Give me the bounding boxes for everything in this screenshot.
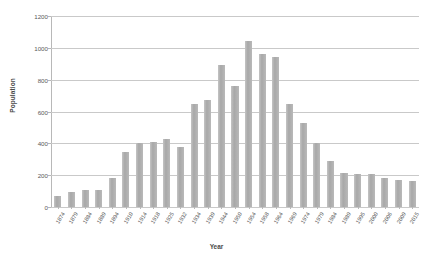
bar: [409, 181, 416, 207]
x-tick-label: 1918: [150, 211, 162, 225]
x-tick-label: 1989: [340, 211, 352, 225]
bar: [204, 100, 211, 207]
x-tick-mark: [317, 207, 318, 209]
bar: [150, 142, 157, 207]
y-tick-mark: [48, 143, 51, 144]
x-tick-label: 1969: [286, 211, 298, 225]
bar: [82, 190, 89, 208]
y-axis-title: Population: [9, 56, 16, 136]
x-tick-label: 1958: [259, 211, 271, 225]
x-tick-label: 1974: [300, 211, 312, 225]
bar: [313, 143, 320, 207]
x-tick-label: 2015: [409, 211, 421, 225]
y-tick-label: 800: [8, 76, 48, 83]
x-tick-mark: [371, 207, 372, 209]
x-tick-mark: [276, 207, 277, 209]
y-tick-mark: [48, 16, 51, 17]
x-tick-mark: [358, 207, 359, 209]
y-tick-label: 400: [8, 140, 48, 147]
y-tick-mark: [48, 48, 51, 49]
x-tick-mark: [180, 207, 181, 209]
x-tick-mark: [330, 207, 331, 209]
x-tick-label: 1894: [109, 211, 121, 225]
x-tick-mark: [221, 207, 222, 209]
x-tick-label: 1934: [191, 211, 203, 225]
x-tick-mark: [126, 207, 127, 209]
x-tick-label: 1932: [177, 211, 189, 225]
x-tick-mark: [303, 207, 304, 209]
x-tick-label: 1950: [231, 211, 243, 225]
bar: [163, 139, 170, 207]
x-tick-label: 1964: [272, 211, 284, 225]
x-tick-label: 2006: [381, 211, 393, 225]
bar: [368, 174, 375, 207]
x-tick-label: 1995: [354, 211, 366, 225]
x-tick-label: 1884: [81, 211, 93, 225]
x-tick-mark: [290, 207, 291, 209]
y-tick-mark: [48, 80, 51, 81]
bar: [272, 57, 279, 207]
bar: [54, 196, 61, 207]
x-tick-label: 1910: [122, 211, 134, 225]
bar-series: [51, 16, 419, 207]
x-tick-mark: [71, 207, 72, 209]
y-tick-label: 1200: [8, 13, 48, 20]
y-tick-label: 200: [8, 172, 48, 179]
x-tick-label: 1914: [136, 211, 148, 225]
x-tick-mark: [194, 207, 195, 209]
bar: [300, 123, 307, 207]
bar: [245, 41, 252, 207]
bar: [177, 147, 184, 207]
y-tick-label: 1000: [8, 44, 48, 51]
y-tick-label: 600: [8, 108, 48, 115]
x-tick-mark: [399, 207, 400, 209]
x-tick-label: 2009: [395, 211, 407, 225]
population-bar-chart: Population Year 020040060080010001200 18…: [0, 0, 433, 259]
x-tick-mark: [344, 207, 345, 209]
x-tick-mark: [140, 207, 141, 209]
x-tick-label: 1944: [218, 211, 230, 225]
x-tick-label: 2000: [368, 211, 380, 225]
bar: [340, 173, 347, 207]
x-tick-label: 1954: [245, 211, 257, 225]
x-tick-mark: [153, 207, 154, 209]
bar: [218, 65, 225, 207]
x-tick-mark: [99, 207, 100, 209]
x-tick-mark: [235, 207, 236, 209]
x-tick-mark: [249, 207, 250, 209]
x-tick-label: 1979: [313, 211, 325, 225]
x-tick-label: 1879: [68, 211, 80, 225]
bar: [191, 104, 198, 207]
x-tick-mark: [167, 207, 168, 209]
plot-area: [51, 16, 419, 207]
x-axis-ticks: 1874187918841889189419101914191819251932…: [51, 209, 419, 243]
bar: [109, 178, 116, 207]
x-tick-label: 1925: [163, 211, 175, 225]
x-tick-mark: [262, 207, 263, 209]
y-tick-mark: [48, 207, 51, 208]
x-tick-mark: [112, 207, 113, 209]
bar: [231, 86, 238, 207]
x-tick-mark: [85, 207, 86, 209]
bar: [354, 174, 361, 207]
bar: [259, 54, 266, 207]
x-tick-label: 1939: [204, 211, 216, 225]
bar: [95, 190, 102, 208]
bar: [122, 152, 129, 207]
x-tick-label: 1889: [95, 211, 107, 225]
bar: [136, 143, 143, 207]
x-tick-mark: [58, 207, 59, 209]
x-tick-mark: [208, 207, 209, 209]
x-tick-mark: [385, 207, 386, 209]
y-tick-mark: [48, 175, 51, 176]
bar: [381, 178, 388, 207]
bar: [68, 192, 75, 207]
bar: [395, 180, 402, 207]
x-tick-label: 1874: [54, 211, 66, 225]
bar: [327, 161, 334, 207]
x-tick-label: 1984: [327, 211, 339, 225]
y-tick-mark: [48, 112, 51, 113]
x-tick-mark: [412, 207, 413, 209]
bar: [286, 104, 293, 207]
y-tick-label: 0: [8, 204, 48, 211]
